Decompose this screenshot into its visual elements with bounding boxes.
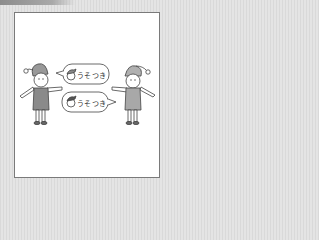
left-elf-arm-left xyxy=(20,87,34,98)
speech-text-bottom: うそつき xyxy=(77,98,106,108)
illustration-canvas xyxy=(0,0,170,181)
left-elf-vest xyxy=(33,88,49,110)
left-elf-head xyxy=(34,73,48,87)
right-elf-arm-right xyxy=(140,87,155,97)
speech-text-top: うそつき xyxy=(77,70,106,80)
left-elf-arm-right xyxy=(47,87,62,92)
right-elf-hat-pompom xyxy=(146,70,150,74)
right-elf-arm-left xyxy=(112,87,127,92)
right-elf-vest xyxy=(125,88,141,110)
left-elf-hat-pompom xyxy=(24,69,28,73)
right-elf-head xyxy=(126,74,140,88)
right-elf xyxy=(112,66,155,125)
